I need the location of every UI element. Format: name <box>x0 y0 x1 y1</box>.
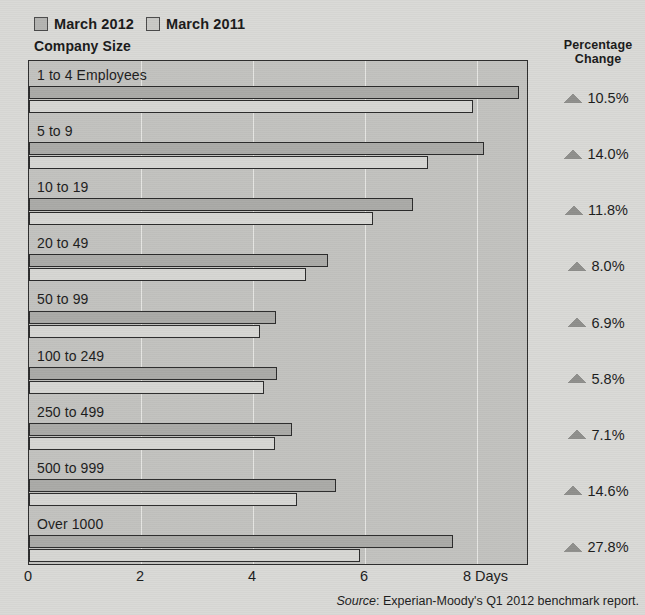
percentage-change-item: 11.8% <box>548 197 645 223</box>
bar-march-2012 <box>29 86 519 99</box>
percentage-change-list: 10.5%14.0%11.8%8.0%6.9%5.8%7.1%14.6%27.8… <box>548 60 645 565</box>
percentage-change-header-line1: Percentage <box>556 38 640 52</box>
bar-march-2012 <box>29 198 413 211</box>
up-triangle-icon <box>564 94 582 103</box>
percentage-change-value: 14.6% <box>587 483 628 499</box>
percentage-change-item: 14.0% <box>548 141 645 167</box>
bar-row: 500 to 999 <box>29 454 527 510</box>
bar-march-2012 <box>29 535 453 548</box>
percentage-change-item: 14.6% <box>548 478 645 504</box>
category-label: 5 to 9 <box>37 123 73 139</box>
percentage-change-value: 5.8% <box>591 371 624 387</box>
source-text: : Experian-Moody's Q1 2012 benchmark rep… <box>376 594 639 608</box>
bar-march-2012 <box>29 367 277 380</box>
bar-march-2012 <box>29 142 484 155</box>
source-note: Source: Experian-Moody's Q1 2012 benchma… <box>336 594 639 608</box>
bar-row: 10 to 19 <box>29 173 527 229</box>
percentage-change-item: 5.8% <box>548 366 645 392</box>
x-tick-label: 2 <box>136 568 144 584</box>
percentage-change-item: 27.8% <box>548 534 645 560</box>
percentage-change-value: 11.8% <box>588 202 628 218</box>
percentage-change-value: 8.0% <box>591 258 624 274</box>
bar-row: 1 to 4 Employees <box>29 61 527 117</box>
x-axis-tick-labels: 02468 Days <box>28 568 528 588</box>
plot-area: 1 to 4 Employees5 to 910 to 1920 to 4950… <box>28 60 528 565</box>
up-triangle-icon <box>564 486 582 495</box>
bar-march-2011 <box>29 268 306 281</box>
category-label: 100 to 249 <box>37 348 104 364</box>
percentage-change-value: 6.9% <box>591 315 624 331</box>
up-triangle-icon <box>568 318 586 327</box>
category-label: 20 to 49 <box>37 235 88 251</box>
bar-row: 5 to 9 <box>29 117 527 173</box>
percentage-change-value: 14.0% <box>587 146 628 162</box>
percentage-change-item: 6.9% <box>548 310 645 336</box>
category-label: 10 to 19 <box>37 179 88 195</box>
bar-row: 250 to 499 <box>29 398 527 454</box>
x-tick-label: 4 <box>248 568 256 584</box>
bar-rows: 1 to 4 Employees5 to 910 to 1920 to 4950… <box>29 61 527 564</box>
category-label: 500 to 999 <box>37 460 104 476</box>
bar-march-2012 <box>29 479 336 492</box>
chart-figure: March 2012 March 2011 Company Size 1 to … <box>0 0 645 615</box>
bar-march-2011 <box>29 437 275 450</box>
bar-march-2012 <box>29 311 276 324</box>
bar-row: 50 to 99 <box>29 285 527 341</box>
bar-march-2011 <box>29 381 264 394</box>
category-label: 250 to 499 <box>37 404 104 420</box>
percentage-change-value: 27.8% <box>587 539 628 555</box>
x-tick-label: 8 Days <box>463 568 508 584</box>
legend-swatch-march-2012 <box>34 17 48 31</box>
bar-march-2011 <box>29 156 428 169</box>
up-triangle-icon <box>565 206 583 215</box>
bar-march-2012 <box>29 254 328 267</box>
legend-entry-march-2012: March 2012 <box>34 16 134 32</box>
x-tick-label: 0 <box>24 568 32 584</box>
category-label: 1 to 4 Employees <box>37 67 147 83</box>
bar-march-2011 <box>29 549 360 562</box>
legend-swatch-march-2011 <box>146 17 160 31</box>
percentage-change-value: 7.1% <box>591 427 624 443</box>
percentage-change-item: 8.0% <box>548 253 645 279</box>
up-triangle-icon <box>568 262 586 271</box>
legend-label-march-2012: March 2012 <box>54 16 134 32</box>
bar-row: 100 to 249 <box>29 342 527 398</box>
up-triangle-icon <box>568 430 586 439</box>
percentage-change-item: 7.1% <box>548 422 645 448</box>
bar-march-2011 <box>29 100 473 113</box>
category-label: Over 1000 <box>37 516 103 532</box>
legend-entry-march-2011: March 2011 <box>146 16 245 32</box>
up-triangle-icon <box>564 150 582 159</box>
x-tick-label: 6 <box>360 568 368 584</box>
bar-march-2011 <box>29 493 297 506</box>
source-label: Source <box>336 594 376 608</box>
bar-row: 20 to 49 <box>29 229 527 285</box>
percentage-change-item: 10.5% <box>548 85 645 111</box>
bar-march-2012 <box>29 423 292 436</box>
bar-march-2011 <box>29 212 373 225</box>
chart-legend: March 2012 March 2011 <box>34 16 245 32</box>
legend-label-march-2011: March 2011 <box>166 16 245 32</box>
up-triangle-icon <box>564 543 582 552</box>
y-axis-title: Company Size <box>34 38 131 54</box>
bar-row: Over 1000 <box>29 510 527 566</box>
bar-march-2011 <box>29 325 260 338</box>
percentage-change-value: 10.5% <box>587 90 628 106</box>
up-triangle-icon <box>568 374 586 383</box>
category-label: 50 to 99 <box>37 291 88 307</box>
